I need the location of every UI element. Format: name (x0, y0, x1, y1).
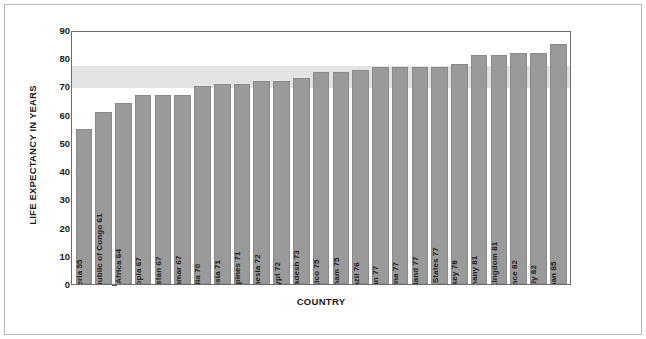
bar[interactable]: Iran 77 (372, 67, 389, 284)
plot-area: Nigeria 55Democratic Republic of Congo 6… (71, 31, 571, 285)
bar-slot: Egypt 72 (272, 32, 292, 284)
bar-label: Mexico 75 (312, 259, 321, 285)
bar-label: Egypt 72 (273, 262, 282, 285)
bar-label: Nigeria 55 (75, 259, 84, 285)
bar-label: China 77 (391, 262, 400, 285)
bar[interactable]: Indonesia 72 (253, 81, 270, 284)
bar-label: Japan 85 (549, 261, 558, 285)
bar-slot: Thailand 77 (410, 32, 430, 284)
bar[interactable]: Pakistan 67 (155, 95, 172, 284)
bar-slot: India 70 (193, 32, 213, 284)
bar-label: Brazil 76 (352, 262, 361, 285)
bar[interactable]: Italy 82 (530, 53, 547, 284)
bar[interactable]: Myanmar 67 (174, 95, 191, 284)
bar[interactable]: Egypt 72 (273, 81, 290, 284)
bar[interactable]: France 82 (510, 53, 527, 284)
bar-slot: France 82 (509, 32, 529, 284)
figure-container: LIFE EXPECTANCY IN YEARS 010203040506070… (0, 0, 646, 339)
bar-slot: Bangladesh 73 (291, 32, 311, 284)
bar-label: Iran 77 (371, 266, 380, 285)
y-axis: 0102030405060708090 (40, 26, 70, 290)
bar-slot: United Kingdom 81 (489, 32, 509, 284)
bar-label: Russia 71 (213, 260, 222, 285)
bar-label: South Africa 64 (114, 249, 123, 285)
bar[interactable]: South Africa 64 (115, 103, 132, 284)
bar[interactable]: India 70 (194, 86, 211, 284)
y-tick-label: 10 (40, 251, 70, 263)
bar[interactable]: Thailand 77 (412, 67, 429, 284)
y-tick-label: 40 (40, 166, 70, 178)
bar-label: Turkey 78 (450, 260, 459, 285)
bar-label: Myanmar 67 (174, 255, 183, 285)
bar[interactable]: Russia 71 (214, 84, 231, 284)
bar-slot: Philippines 71 (232, 32, 252, 284)
bar-slot: Brazil 76 (351, 32, 371, 284)
bar-slot: Nigeria 55 (74, 32, 94, 284)
bar-label: India 70 (193, 264, 202, 285)
bar[interactable]: Ethiopia 67 (135, 95, 152, 284)
bar-label: Italy 82 (529, 265, 538, 285)
bar-label: Bangladesh 73 (292, 250, 301, 285)
bar[interactable]: Japan 85 (550, 44, 567, 284)
bar[interactable]: Bangladesh 73 (293, 78, 310, 284)
y-tick-label: 90 (40, 25, 70, 37)
y-tick-label: 60 (40, 110, 70, 122)
bar[interactable]: Turkey 78 (451, 64, 468, 284)
bar-slot: Pakistan 67 (153, 32, 173, 284)
bar-label: Vietnam 75 (332, 257, 341, 285)
y-tick-label: 50 (40, 138, 70, 150)
bar-label: Ethiopia 67 (134, 257, 143, 285)
bar-label: Germany 81 (470, 256, 479, 285)
bar-label: Democratic Republic of Congo 61 (95, 213, 104, 285)
bar-slot: Indonesia 72 (252, 32, 272, 284)
y-tick-mark (112, 285, 117, 286)
bar[interactable]: United Kingdom 81 (491, 55, 508, 284)
bar-slot: Ethiopia 67 (133, 32, 153, 284)
bar-slot: China 77 (390, 32, 410, 284)
y-tick-label: 20 (40, 223, 70, 235)
bar-slot: Italy 82 (529, 32, 549, 284)
bar-slot: United States 77 (430, 32, 450, 284)
bar[interactable]: Germany 81 (471, 55, 488, 284)
bar[interactable]: Vietnam 75 (333, 72, 350, 284)
bar-slot: Mexico 75 (311, 32, 331, 284)
x-axis-title: COUNTRY (71, 296, 571, 307)
y-tick-label: 0 (40, 279, 70, 291)
bar-label: United Kingdom 81 (490, 242, 499, 285)
bar[interactable]: Philippines 71 (234, 84, 251, 284)
bar-slot: Turkey 78 (450, 32, 470, 284)
bar-slot: Germany 81 (469, 32, 489, 284)
bar-slot: Vietnam 75 (331, 32, 351, 284)
bar[interactable]: Nigeria 55 (76, 129, 93, 284)
bar-slot: Japan 85 (548, 32, 568, 284)
bar[interactable]: United States 77 (431, 67, 448, 284)
bar[interactable]: Brazil 76 (352, 70, 369, 284)
bar-slot: Myanmar 67 (173, 32, 193, 284)
bar-label: Thailand 77 (411, 256, 420, 285)
bar[interactable]: China 77 (392, 67, 409, 284)
bar-slot: Russia 71 (212, 32, 232, 284)
bar-series: Nigeria 55Democratic Republic of Congo 6… (72, 32, 570, 284)
bar-label: Pakistan 67 (154, 256, 163, 285)
bar-label: Philippines 71 (233, 251, 242, 285)
bar-label: Indonesia 72 (253, 254, 262, 285)
bar-label: United States 77 (431, 247, 440, 285)
bar-slot: South Africa 64 (114, 32, 134, 284)
bar[interactable]: Mexico 75 (313, 72, 330, 284)
y-tick-label: 30 (40, 194, 70, 206)
y-tick-label: 80 (40, 53, 70, 65)
bar-label: France 82 (510, 260, 519, 285)
bar-slot: Iran 77 (370, 32, 390, 284)
bar[interactable]: Democratic Republic of Congo 61 (95, 112, 112, 284)
bar-slot: Democratic Republic of Congo 61 (94, 32, 114, 284)
y-tick-label: 70 (40, 81, 70, 93)
